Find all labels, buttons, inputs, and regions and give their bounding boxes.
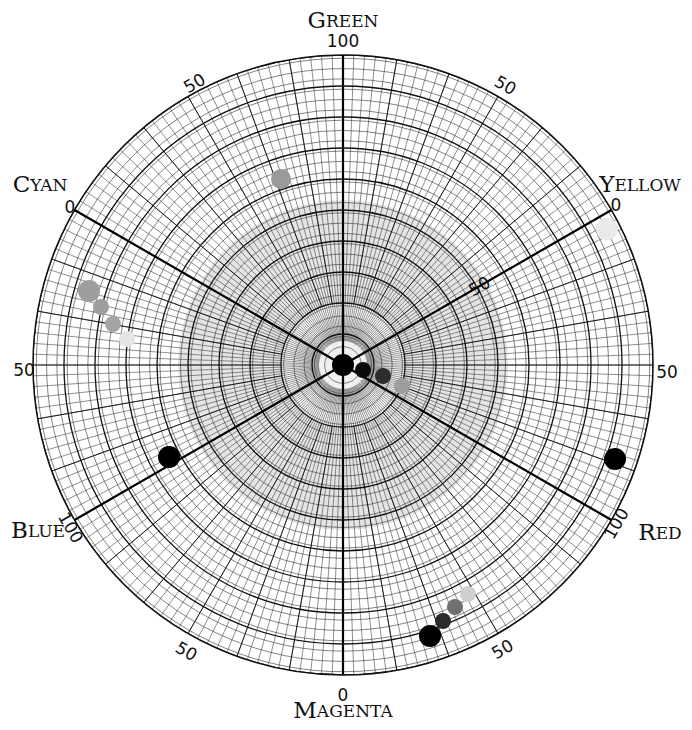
data-point — [435, 613, 451, 629]
tick-label: 50 — [13, 360, 35, 380]
data-point — [158, 446, 180, 468]
data-point — [105, 316, 121, 332]
data-point — [460, 586, 476, 602]
tick-label: 100 — [327, 31, 359, 51]
tick-label: 50 — [172, 637, 201, 665]
axis-label-cyan: CYAN — [13, 171, 68, 197]
data-point — [355, 362, 371, 378]
data-point — [419, 625, 441, 647]
axis-label-green: GREEN — [308, 7, 379, 33]
data-point — [447, 599, 463, 615]
data-point — [596, 218, 618, 240]
tick-label: 50 — [488, 635, 517, 663]
data-point — [604, 448, 626, 470]
tick-label: 0 — [65, 197, 76, 217]
data-point — [93, 299, 109, 315]
data-point — [78, 280, 100, 302]
data-point — [332, 354, 354, 376]
data-point — [271, 169, 291, 189]
data-point — [375, 368, 391, 384]
axis-label-red: RED — [638, 519, 681, 545]
axis-label-magenta: MAGENTA — [293, 697, 393, 723]
axis-label-blue: BLUE — [11, 517, 65, 543]
tick-label: 50 — [656, 362, 678, 382]
data-point — [394, 378, 410, 394]
axis-label-yellow: YELLOW — [598, 171, 681, 197]
data-point — [119, 331, 135, 347]
tick-label: 0 — [611, 195, 622, 215]
polar-color-chart: 10050500050505010010050500 GREENYELLOWRE… — [0, 0, 692, 730]
